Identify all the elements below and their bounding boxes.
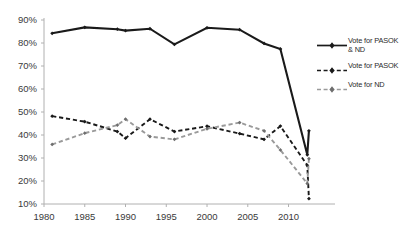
legend-label-line1: Vote for PASOK bbox=[348, 36, 398, 45]
x-axis-tick-label: 2010 bbox=[269, 211, 309, 222]
y-axis-tick-label: 10% bbox=[0, 198, 37, 209]
legend-label-pasok-and-nd: Vote for PASOK & ND bbox=[348, 36, 398, 54]
legend-swatch-dashed-dark bbox=[316, 62, 348, 73]
legend-item-pasok[interactable]: Vote for PASOK bbox=[316, 61, 409, 73]
y-axis-tick-label: 20% bbox=[0, 175, 37, 186]
data-point bbox=[50, 114, 54, 118]
data-point bbox=[238, 132, 242, 136]
data-point bbox=[307, 157, 311, 161]
y-axis-tick-label: 60% bbox=[0, 83, 37, 94]
legend-swatch-dashed-gray bbox=[316, 81, 348, 92]
y-axis-tick-label: 50% bbox=[0, 106, 37, 117]
x-axis-tick-label: 1995 bbox=[146, 211, 186, 222]
y-axis-tick-label: 30% bbox=[0, 152, 37, 163]
legend-label-line2: & ND bbox=[348, 45, 365, 54]
data-point bbox=[307, 129, 311, 133]
data-point bbox=[307, 197, 311, 201]
x-axis-tick-label: 1990 bbox=[106, 211, 146, 222]
data-point bbox=[83, 131, 87, 135]
x-axis-tick-label: 1980 bbox=[24, 211, 64, 222]
data-point bbox=[115, 27, 119, 31]
y-axis-tick-label: 40% bbox=[0, 129, 37, 140]
axis-lines bbox=[44, 18, 335, 204]
y-axis-tick-label: 90% bbox=[0, 14, 37, 25]
series-line-1 bbox=[52, 116, 309, 199]
chart-legend: Vote for PASOK & ND Vote for PASOK Vote … bbox=[316, 36, 409, 99]
x-axis-tick-label: 2005 bbox=[228, 211, 268, 222]
data-point bbox=[83, 120, 87, 124]
data-point bbox=[50, 31, 54, 35]
series-line-2 bbox=[52, 119, 309, 183]
data-series-layer bbox=[50, 25, 311, 200]
legend-label-nd: Vote for ND bbox=[348, 80, 385, 89]
data-point bbox=[238, 121, 242, 125]
x-axis-tick-label: 1985 bbox=[65, 211, 105, 222]
legend-label-pasok: Vote for PASOK bbox=[348, 61, 398, 70]
chart-container: 10%20%30%40%50%60%70%80%90% 198019851990… bbox=[0, 0, 409, 235]
series-line-0 bbox=[52, 27, 309, 154]
legend-item-nd[interactable]: Vote for ND bbox=[316, 80, 409, 92]
data-point bbox=[262, 137, 266, 141]
legend-swatch-solid bbox=[316, 37, 348, 48]
x-axis-tick-label: 2000 bbox=[187, 211, 227, 222]
legend-item-pasok-and-nd[interactable]: Vote for PASOK & ND bbox=[316, 36, 409, 54]
y-axis-tick-label: 80% bbox=[0, 37, 37, 48]
y-axis-tick-label: 70% bbox=[0, 60, 37, 71]
data-point bbox=[115, 123, 119, 127]
data-point bbox=[83, 25, 87, 29]
data-point bbox=[124, 29, 128, 33]
axis-ticks bbox=[41, 20, 289, 207]
